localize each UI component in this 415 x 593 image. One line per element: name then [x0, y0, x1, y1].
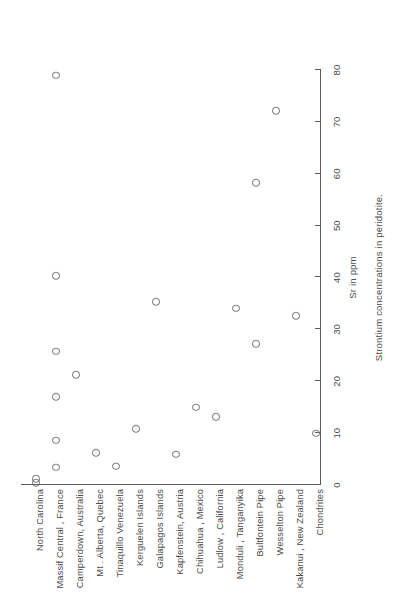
data-point — [232, 304, 240, 312]
x-tick-0 — [315, 484, 321, 485]
category-label-ludlow-california: Ludlow , California — [215, 489, 225, 568]
data-point — [272, 107, 280, 115]
data-point — [292, 312, 300, 320]
category-label-wesselton-pipe: Wesselton Pipe — [275, 489, 285, 556]
data-point — [152, 298, 160, 306]
x-tick-label-80: 80 — [331, 64, 342, 75]
x-tick-30 — [315, 328, 321, 329]
x-tick-label-20: 20 — [331, 375, 342, 386]
data-point — [32, 474, 40, 482]
data-point — [92, 449, 100, 457]
x-tick-40 — [315, 276, 321, 277]
data-point — [192, 403, 200, 411]
figure-scatter-strontium: 01020304050607080 North CarolinaMassif C… — [0, 0, 415, 593]
category-label-north-carolina: North Carolina — [35, 489, 45, 551]
x-axis-title: Sr in ppm — [347, 70, 358, 485]
figure-caption: Strontium concentrations in peridotite. — [373, 70, 384, 485]
data-point — [52, 436, 60, 444]
category-label-kapfenstein-austria: Kapfenstein, Austria — [175, 489, 185, 575]
x-tick-50 — [315, 224, 321, 225]
data-point — [252, 178, 260, 186]
chart-stage: 01020304050607080 North CarolinaMassif C… — [13, 17, 403, 577]
x-tick-label-40: 40 — [331, 272, 342, 283]
category-label-tinaquillo-venezuela: Tinaquillo Venezuela — [115, 489, 125, 577]
data-point — [172, 450, 180, 458]
data-point — [52, 347, 60, 355]
data-point — [52, 71, 60, 79]
x-tick-label-10: 10 — [331, 427, 342, 438]
category-label-kakanui-new-zealand: Kakanui , New Zealand — [295, 489, 305, 588]
plot-area: 01020304050607080 North CarolinaMassif C… — [21, 70, 321, 485]
x-tick-label-30: 30 — [331, 323, 342, 334]
category-label-camperdown-australia: Camperdown, Australia — [75, 489, 85, 588]
data-point — [52, 393, 60, 401]
data-point — [52, 463, 60, 471]
x-tick-20 — [315, 380, 321, 381]
data-point — [112, 462, 120, 470]
data-point — [72, 371, 80, 379]
category-label-mt-alberta-quebec: Mt . Alberta, Quebec — [95, 489, 105, 577]
data-point — [212, 412, 220, 420]
category-label-kerguelen-islands: Kerguelen Islands — [135, 489, 145, 566]
data-point — [132, 425, 140, 433]
category-label-bultfontein-pipe: Bultfontein Pipe — [255, 489, 265, 557]
category-label-monduli-tanganyika: Monduli , Tanganyika — [235, 489, 245, 579]
y-axis-line — [21, 484, 321, 485]
x-tick-label-60: 60 — [331, 168, 342, 179]
x-tick-60 — [315, 172, 321, 173]
data-point — [52, 272, 60, 280]
category-label-chondrites: Chondrites — [315, 489, 325, 535]
data-point — [252, 340, 260, 348]
x-tick-70 — [315, 120, 321, 121]
x-tick-80 — [315, 69, 321, 70]
category-label-chihuahua-mexico: Chihuahua , Mexico — [195, 489, 205, 574]
category-label-massif-central-france: Massif Central , France — [55, 489, 65, 589]
category-label-galapagos-islands: Galapagos Islands — [155, 489, 165, 569]
x-tick-label-50: 50 — [331, 220, 342, 231]
x-tick-label-0: 0 — [331, 482, 342, 487]
data-point — [312, 429, 320, 437]
x-tick-label-70: 70 — [331, 116, 342, 127]
